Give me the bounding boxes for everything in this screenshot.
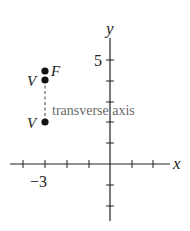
- focus-point: [41, 67, 48, 74]
- vertex-label-lower: V: [27, 115, 38, 131]
- transverse-axis-label: transverse axis: [52, 103, 135, 118]
- y-tick-label: 5: [94, 52, 102, 69]
- x-tick-label: −3: [30, 173, 47, 190]
- focus-label: F: [50, 63, 61, 79]
- vertex-point-upper: [41, 76, 48, 83]
- vertex-label-upper: V: [27, 73, 38, 89]
- hyperbola-diagram: x y −3 5 F V V transverse axis: [0, 0, 190, 231]
- x-axis-label: x: [172, 154, 181, 173]
- x-axis: [10, 160, 170, 168]
- y-axis: [106, 38, 114, 221]
- vertex-point-lower: [41, 118, 48, 125]
- y-axis-label: y: [104, 19, 114, 38]
